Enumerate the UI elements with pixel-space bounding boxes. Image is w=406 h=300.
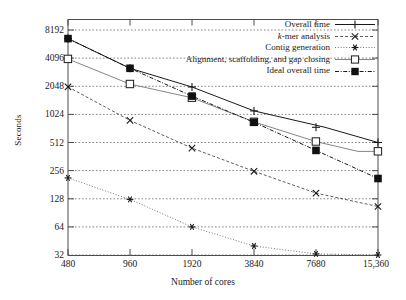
x-tick-label-15360: 15,360 — [346, 259, 406, 269]
chart-figure: 8192 4096 2048 1024 512 256 128 64 32 48… — [0, 0, 406, 300]
marker-filled-square — [374, 175, 382, 183]
marker-cross — [189, 145, 195, 151]
marker-filled-square — [312, 147, 320, 155]
legend-key-asterisk-dotted — [333, 42, 377, 53]
marker-asterisk — [251, 243, 258, 249]
marker-plus — [374, 139, 382, 147]
legend-item-overall-time[interactable]: Overall time — [127, 19, 377, 31]
legend-key-open-square-solid — [333, 54, 377, 65]
marker-filled-square — [188, 92, 196, 100]
marker-plus — [250, 107, 258, 115]
legend-item-alignment-scaffolding-gap-closing[interactable]: Alignment, scaffolding, and gap closing — [127, 54, 377, 66]
legend-label-kmer-analysis: k-mer analysis — [278, 31, 333, 43]
marker-asterisk — [127, 197, 134, 203]
series-kmer-analysis — [65, 84, 381, 210]
marker-open-square — [312, 138, 319, 145]
legend-key-cross-dashed — [333, 31, 377, 42]
x-tick-label-3840: 3840 — [224, 259, 284, 269]
y-tick-label-512: 512 — [24, 138, 64, 148]
x-tick-label-480: 480 — [38, 259, 98, 269]
y-tick-label-128: 128 — [24, 194, 64, 204]
marker-open-square — [64, 55, 71, 62]
legend-label-contig-generation: Contig generation — [265, 42, 333, 54]
legend-label-overall-time: Overall time — [285, 19, 333, 31]
legend-label-ideal-overall-time: Ideal overall time — [267, 65, 333, 77]
chart-legend: Overall time k-mer analysis Contig gener… — [127, 19, 377, 77]
y-tick-label-1024: 1024 — [24, 109, 64, 119]
legend-item-ideal-overall-time[interactable]: Ideal overall time — [127, 65, 377, 77]
x-axis-title: Number of cores — [0, 277, 406, 287]
marker-cross — [127, 117, 133, 123]
y-tick-label-2048: 2048 — [24, 81, 64, 91]
legend-key-plus-solid — [333, 19, 377, 30]
legend-key-filled-square-dashdot — [333, 66, 377, 77]
y-tick-label-64: 64 — [24, 222, 64, 232]
x-tick-label-7680: 7680 — [286, 259, 346, 269]
y-tick-label-4096: 4096 — [24, 53, 64, 63]
series-contig-generation — [65, 175, 382, 258]
marker-filled-square — [250, 119, 258, 127]
y-axis-title: Seconds — [13, 90, 23, 170]
marker-open-square — [126, 80, 133, 87]
marker-cross — [251, 168, 257, 174]
marker-plus — [188, 83, 196, 91]
marker-asterisk — [189, 224, 196, 230]
y-tick-label-256: 256 — [24, 166, 64, 176]
legend-label-alignment-scaffolding-gap-closing: Alignment, scaffolding, and gap closing — [186, 54, 333, 66]
marker-open-square — [374, 148, 381, 155]
y-tick-label-8192: 8192 — [24, 25, 64, 35]
x-tick-label-1920: 1920 — [162, 259, 222, 269]
marker-filled-square — [64, 35, 72, 43]
legend-item-contig-generation[interactable]: Contig generation — [127, 42, 377, 54]
marker-cross — [313, 190, 319, 196]
legend-label-kmer-rest: -mer analysis — [282, 31, 330, 41]
legend-item-kmer-analysis[interactable]: k-mer analysis — [127, 31, 377, 43]
x-tick-label-960: 960 — [100, 259, 160, 269]
